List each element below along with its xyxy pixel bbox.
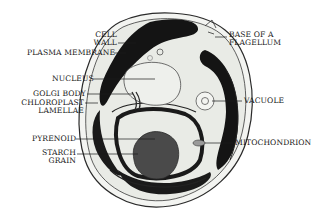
label-plasma-membrane: PLASMA MEMBRANE xyxy=(27,49,115,57)
label-cell-wall-line2: WALL xyxy=(84,39,117,47)
label-mitochondrion: MITOCHONDRION xyxy=(235,139,311,147)
label-flagellum-line2: FLAGELLUM xyxy=(229,39,281,47)
mitochondrion xyxy=(193,140,205,146)
label-starch-line2: GRAIN xyxy=(36,157,76,165)
cell-diagram: CELL WALL PLASMA MEMBRANE NUCLEUS GOLGI … xyxy=(0,0,326,216)
label-starch-grain: STARCH GRAIN xyxy=(36,149,76,166)
label-chloroplast-lamellae: CHLOROPLAST LAMELLAE xyxy=(20,99,84,116)
label-cell-wall: CELL WALL xyxy=(84,31,117,48)
label-pyrenoid: PYRENOID xyxy=(32,135,76,143)
label-nucleus: NUCLEUS xyxy=(52,75,94,83)
vacuole xyxy=(196,92,214,110)
label-vacuole: VACUOLE xyxy=(244,97,284,105)
label-base-of-flagellum: BASE OF A FLAGELLUM xyxy=(229,31,281,48)
label-chloroplast-line2: LAMELLAE xyxy=(20,107,84,115)
